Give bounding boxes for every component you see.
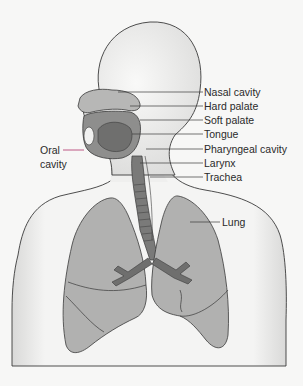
label-trachea: Trachea [204,171,242,183]
label-oral-cavity-line1: Oral [40,144,60,156]
respiratory-diagram [0,0,303,386]
label-nasal-cavity: Nasal cavity [204,86,261,98]
tongue-shape [98,122,132,151]
label-tongue: Tongue [204,128,238,140]
lips [84,127,94,145]
label-lung: Lung [222,216,245,228]
label-pharyngeal-cavity: Pharyngeal cavity [204,143,287,155]
label-larynx: Larynx [204,157,236,169]
label-hard-palate: Hard palate [204,100,258,112]
label-oral-cavity-line2: cavity [40,158,67,170]
label-soft-palate: Soft palate [204,114,254,126]
